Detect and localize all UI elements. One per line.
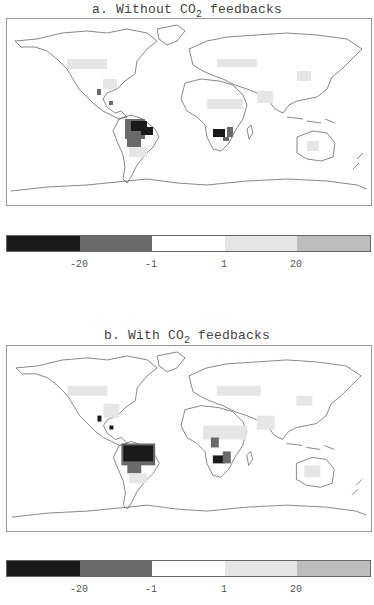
colorbar-b-seg-1	[7, 561, 80, 576]
world-map-a	[7, 19, 371, 205]
colorbar-b-label-3: 1	[221, 584, 227, 595]
colorbar-b-seg-5	[297, 561, 370, 576]
world-map-b	[7, 346, 371, 531]
panel-b-title-suffix: feedbacks	[190, 328, 270, 343]
colorbar-a-label-2: -1	[145, 259, 157, 270]
colorbar-a-label-1: -20	[70, 259, 88, 270]
colorbar-b-label-2: -1	[145, 584, 157, 595]
panel-a-map	[6, 18, 372, 206]
shading-a	[67, 59, 319, 157]
colorbar-a-seg-4	[225, 236, 298, 251]
panel-b-map	[6, 345, 372, 532]
colorbar-a-seg-5	[297, 236, 370, 251]
colorbar-b	[6, 560, 371, 577]
panel-a-title-suffix: feedbacks	[202, 2, 282, 17]
colorbar-b-seg-2	[80, 561, 153, 576]
colorbar-b-label-1: -20	[70, 584, 88, 595]
colorbar-a	[6, 235, 371, 252]
colorbar-a-label-4: 20	[290, 259, 302, 270]
colorbar-a-seg-2	[80, 236, 153, 251]
colorbar-b-label-4: 20	[290, 584, 302, 595]
panel-a-title-prefix: a. Without CO	[92, 2, 196, 17]
colorbar-b-seg-4	[225, 561, 298, 576]
shading-b	[68, 386, 321, 483]
colorbar-a-seg-1	[7, 236, 80, 251]
colorbar-a-seg-3	[152, 236, 225, 251]
colorbar-a-label-3: 1	[221, 259, 227, 270]
colorbar-b-seg-3	[152, 561, 225, 576]
panel-b-title-prefix: b. With CO	[104, 328, 184, 343]
panel-b-title: b. With CO2 feedbacks	[0, 328, 374, 346]
